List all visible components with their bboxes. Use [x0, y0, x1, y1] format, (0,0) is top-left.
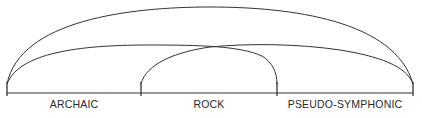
segment-label-pseudo-symphonic: PSEUDO-SYMPHONIC	[288, 98, 403, 110]
arc-archaic-to-rock-end	[7, 45, 277, 84]
arc-outer	[7, 7, 413, 84]
segment-label-rock: ROCK	[193, 98, 224, 110]
segment-label-archaic: ARCHAIC	[50, 98, 99, 110]
